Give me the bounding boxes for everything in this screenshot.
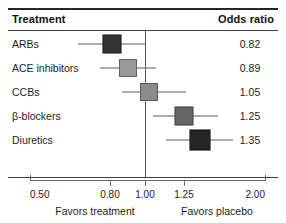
x-tick-label-4: 2.00	[246, 189, 265, 200]
forest-row: Diuretics1.35	[0, 128, 286, 152]
table-top-rule	[8, 8, 278, 10]
forest-row: ACE inhibitors0.89	[0, 56, 286, 80]
forest-row: CCBs1.05	[0, 80, 286, 104]
row-label-2: CCBs	[12, 86, 39, 98]
x-axis-line	[30, 180, 265, 181]
odds-ratio-value-0: 0.82	[228, 38, 272, 50]
column-header-odds-ratio: Odds ratio	[218, 13, 274, 25]
effect-estimate-marker-0	[103, 35, 122, 54]
effect-estimate-marker-3	[175, 107, 194, 126]
x-tick-1	[110, 180, 111, 186]
odds-ratio-value-2: 1.05	[228, 86, 272, 98]
x-tick-4	[265, 175, 266, 181]
row-label-3: β-blockers	[12, 110, 61, 122]
x-tick-label-0: 0.50	[30, 189, 49, 200]
column-header-treatment: Treatment	[12, 13, 65, 25]
forest-plot-figure: Treatment Odds ratio ARBs0.82ACE inhibit…	[0, 0, 286, 223]
x-tick-3	[184, 180, 185, 186]
row-label-1: ACE inhibitors	[12, 62, 79, 74]
axis-caption-favors-treatment: Favors treatment	[55, 205, 134, 217]
row-label-0: ARBs	[12, 38, 39, 50]
odds-ratio-value-3: 1.25	[228, 110, 272, 122]
x-tick-label-1: 0.80	[100, 189, 119, 200]
odds-ratio-value-4: 1.35	[228, 134, 272, 146]
x-tick-0	[30, 175, 31, 181]
x-tick-2	[145, 180, 146, 186]
axis-caption-favors-placebo: Favors placebo	[181, 205, 253, 217]
effect-estimate-marker-1	[119, 59, 137, 77]
row-label-4: Diuretics	[12, 134, 53, 146]
effect-estimate-marker-2	[140, 83, 158, 101]
table-bottom-rule	[8, 177, 278, 178]
odds-ratio-value-1: 0.89	[228, 62, 272, 74]
plot-area: ARBs0.82ACE inhibitors0.89CCBs1.05β-bloc…	[0, 30, 286, 177]
forest-row: ARBs0.82	[0, 32, 286, 56]
x-tick-label-3: 1.25	[174, 189, 193, 200]
effect-estimate-marker-4	[190, 130, 211, 151]
x-tick-label-2: 1.00	[135, 189, 154, 200]
forest-row: β-blockers1.25	[0, 104, 286, 128]
